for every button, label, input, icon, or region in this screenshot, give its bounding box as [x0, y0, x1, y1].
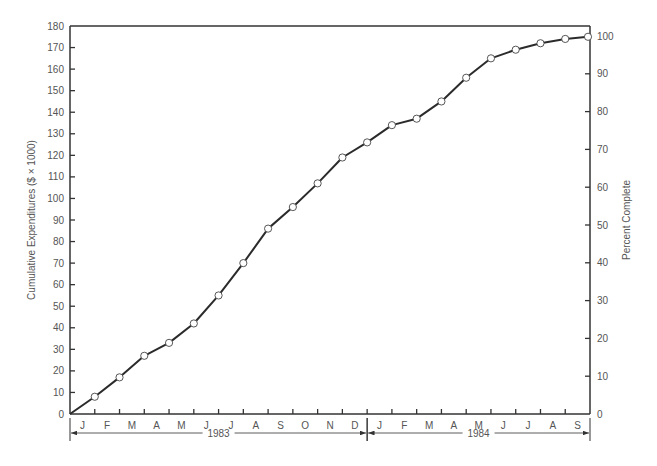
- month-label: J: [80, 420, 85, 431]
- data-point-marker: [463, 74, 470, 81]
- data-point-marker: [289, 203, 296, 210]
- y-tick-label: 20: [53, 365, 65, 376]
- x-axis: JFMAMJJASONDJFMAMJJAS: [80, 409, 581, 431]
- y-tick-label: 180: [47, 21, 64, 32]
- y-tick-label: 50: [53, 301, 65, 312]
- y-tick-label: 10: [53, 387, 65, 398]
- month-label: A: [450, 420, 457, 431]
- year-label: 1983: [207, 428, 230, 439]
- month-label: F: [401, 420, 407, 431]
- y-tick-label: 0: [58, 409, 64, 420]
- y2-tick-label: 10: [597, 371, 609, 382]
- month-label: J: [501, 420, 506, 431]
- data-point-marker: [339, 154, 346, 161]
- data-point-marker: [141, 352, 148, 359]
- y2-tick-label: 40: [597, 257, 609, 268]
- data-point-marker: [91, 393, 98, 400]
- data-point-marker: [413, 115, 420, 122]
- y-tick-label: 90: [53, 215, 65, 226]
- y-tick-label: 160: [47, 64, 64, 75]
- month-label: N: [326, 420, 333, 431]
- data-point-marker: [215, 292, 222, 299]
- data-point-marker: [512, 46, 519, 53]
- month-label: A: [550, 420, 557, 431]
- month-label: J: [377, 420, 382, 431]
- data-point-marker: [388, 122, 395, 129]
- month-label: M: [177, 420, 185, 431]
- data-point-marker: [537, 40, 544, 47]
- y2-tick-label: 0: [597, 409, 603, 420]
- data-point-marker: [364, 139, 371, 146]
- data-series: [70, 33, 592, 414]
- cumulative-expenditure-chart: 0102030405060708090100110120130140150160…: [0, 0, 657, 466]
- data-point-marker: [116, 374, 123, 381]
- y-tick-label: 60: [53, 279, 65, 290]
- y2-tick-label: 90: [597, 68, 609, 79]
- y2-tick-label: 70: [597, 144, 609, 155]
- data-point-marker: [190, 320, 197, 327]
- y-tick-label: 100: [47, 193, 64, 204]
- y2-tick-label: 80: [597, 106, 609, 117]
- month-label: D: [351, 420, 358, 431]
- left-axis-title: Cumulative Expenditures ($ × 1000): [26, 140, 37, 300]
- data-point-marker: [487, 55, 494, 62]
- month-label: A: [153, 420, 160, 431]
- y-tick-label: 120: [47, 150, 64, 161]
- month-label: S: [277, 420, 284, 431]
- y-tick-label: 110: [48, 171, 64, 182]
- data-point-marker: [264, 225, 271, 232]
- y-tick-label: 40: [53, 322, 65, 333]
- y-tick-label: 140: [47, 107, 64, 118]
- data-point-marker: [240, 260, 247, 267]
- y-tick-label: 170: [47, 42, 64, 53]
- y-tick-label: 30: [53, 344, 65, 355]
- data-point-marker: [584, 33, 591, 40]
- y2-tick-label: 100: [597, 31, 614, 42]
- data-point-marker: [438, 98, 445, 105]
- month-label: M: [425, 420, 433, 431]
- y2-tick-label: 20: [597, 333, 609, 344]
- month-label: J: [526, 420, 531, 431]
- data-point-marker: [562, 35, 569, 42]
- month-label: O: [301, 420, 309, 431]
- y2-tick-label: 60: [597, 182, 609, 193]
- month-label: F: [104, 420, 110, 431]
- month-label: A: [252, 420, 259, 431]
- y-tick-label: 70: [53, 258, 65, 269]
- data-point-marker: [314, 180, 321, 187]
- month-label: S: [574, 420, 581, 431]
- data-point-marker: [165, 339, 172, 346]
- y2-tick-label: 50: [597, 220, 609, 231]
- year-label: 1984: [467, 428, 490, 439]
- y-tick-label: 80: [53, 236, 65, 247]
- y2-tick-label: 30: [597, 295, 609, 306]
- y-tick-label: 130: [47, 128, 64, 139]
- left-y-axis: 0102030405060708090100110120130140150160…: [47, 21, 75, 420]
- right-axis-title: Percent Complete: [621, 180, 632, 260]
- month-label: M: [128, 420, 136, 431]
- y-tick-label: 150: [47, 85, 64, 96]
